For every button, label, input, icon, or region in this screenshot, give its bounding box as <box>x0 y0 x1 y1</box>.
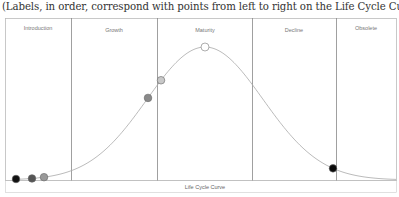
chart-frame <box>6 19 397 181</box>
axis-label: Life Cycle Curve <box>185 184 225 190</box>
curve-point <box>28 175 36 183</box>
life-cycle-diagram: Introduction Growth Maturity Decline Obs… <box>0 0 399 197</box>
curve-point <box>40 173 48 181</box>
phase-label-obsolete: Obsolete <box>355 25 377 31</box>
phase-label-maturity: Maturity <box>195 27 215 33</box>
curve-point <box>201 43 209 51</box>
curve-point <box>144 94 152 102</box>
phase-label-decline: Decline <box>285 27 303 33</box>
phase-label-introduction: Introduction <box>24 25 53 31</box>
phase-label-growth: Growth <box>105 27 123 33</box>
life-cycle-curve <box>12 47 396 179</box>
curve-point <box>12 175 20 183</box>
curve-point <box>157 76 165 84</box>
curve-point <box>329 165 337 173</box>
